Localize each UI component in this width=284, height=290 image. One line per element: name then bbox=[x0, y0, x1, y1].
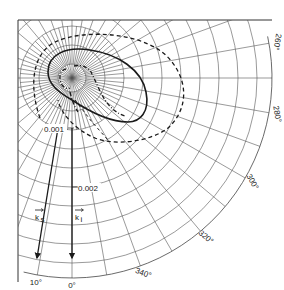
grid-spoke bbox=[72, 0, 225, 78]
k-i-label: k i bbox=[75, 209, 84, 225]
radial-label-0001: 0.001 bbox=[44, 125, 65, 134]
grid-spoke-fine bbox=[50, 31, 66, 65]
grid-spoke-fine bbox=[25, 56, 59, 72]
angle-label: 10° bbox=[30, 278, 42, 287]
grid-spoke-fine bbox=[22, 65, 59, 75]
grid-spoke bbox=[72, 78, 201, 231]
grid-spoke-fine bbox=[82, 41, 109, 68]
angle-labels: 10°0°340°320°300°280°260° bbox=[30, 33, 283, 290]
grid-spoke-fine bbox=[35, 88, 62, 115]
radial-label-0002: 0.002 bbox=[78, 184, 99, 193]
grid-spoke-fine bbox=[85, 56, 119, 72]
grid-spoke bbox=[72, 78, 260, 146]
vector-labels: k s k i bbox=[35, 209, 84, 225]
grid-spoke-fine bbox=[50, 91, 66, 125]
svg-text:k: k bbox=[35, 213, 40, 222]
grid-spoke bbox=[72, 0, 201, 78]
grid-spoke bbox=[4, 78, 72, 266]
grid-spoke-fine bbox=[82, 88, 109, 115]
angle-label: 300° bbox=[244, 172, 260, 191]
grid-spoke-fine bbox=[76, 28, 86, 65]
svg-text:s: s bbox=[41, 215, 45, 224]
svg-text:i: i bbox=[81, 215, 83, 224]
grid-spoke bbox=[0, 78, 72, 146]
angle-label: 320° bbox=[197, 228, 215, 246]
angle-label: 340° bbox=[134, 266, 153, 280]
grid-spoke bbox=[72, 0, 107, 78]
grid-spoke-fine bbox=[85, 84, 119, 100]
grid-spoke-fine bbox=[59, 28, 69, 65]
svg-text:k: k bbox=[75, 213, 80, 222]
angle-label: 0° bbox=[68, 281, 76, 290]
k-s-label: k s bbox=[35, 209, 45, 225]
grid-spoke-fine bbox=[86, 82, 123, 92]
angle-label: 260° bbox=[271, 33, 283, 51]
vectors bbox=[37, 128, 72, 258]
grid-spoke bbox=[72, 0, 245, 78]
angle-label: 280° bbox=[271, 105, 283, 123]
k-s-vector bbox=[37, 128, 58, 258]
polar-diagram: k s k i 0.001 0.002 10°0°340°320°300°280… bbox=[0, 0, 284, 290]
grid-spoke bbox=[72, 0, 172, 78]
grid-spoke bbox=[37, 0, 72, 78]
grid-spoke-fine bbox=[78, 31, 94, 65]
